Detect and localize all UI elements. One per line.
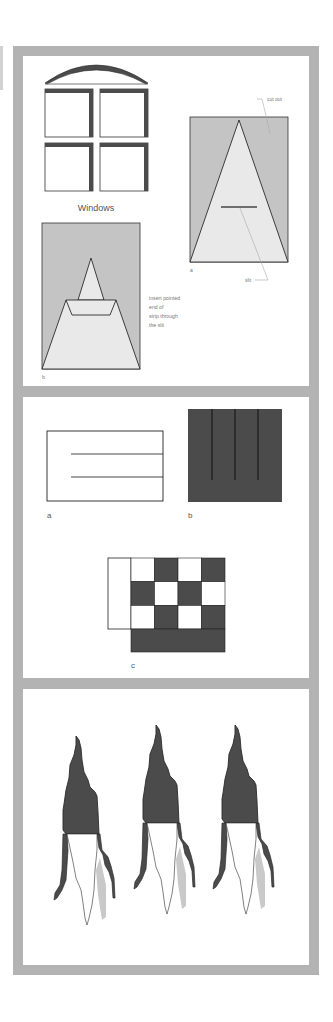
figure-b-label: b <box>42 374 45 380</box>
instruction-line-4: the slit <box>149 322 165 328</box>
window-pane-4 <box>100 143 148 191</box>
figure-a-label: a <box>190 267 193 273</box>
windows-label: Windows <box>78 203 115 213</box>
instruction-line-3: strip through <box>149 313 178 319</box>
slit-callout: slit <box>245 277 252 283</box>
cutout-figure-a: cut out slit a <box>190 96 288 283</box>
weave-c-label: c <box>131 661 135 670</box>
instruction-line-1: insert pointed <box>149 295 180 301</box>
window-pane-1 <box>45 89 93 137</box>
left-edge-stub <box>0 46 3 90</box>
window-pane-2 <box>100 89 148 137</box>
instruction-line-2: end of <box>149 304 164 310</box>
cut-out-callout: cut out <box>267 96 283 102</box>
weave-b-label: b <box>188 511 193 520</box>
craft-diagram: Windows cut out slit a b insert pointed … <box>0 0 333 1022</box>
window-pane-3 <box>45 143 93 191</box>
weave-a-label: a <box>47 511 52 520</box>
